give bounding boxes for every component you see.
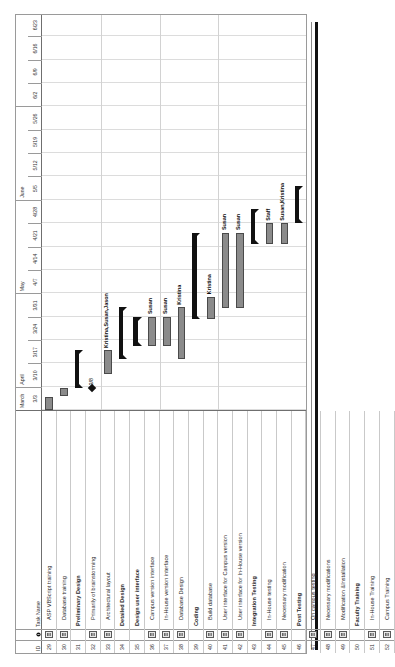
table-row[interactable]: 48Necessary modifications	[321, 411, 336, 653]
timescale-week-tick: 6/16	[28, 36, 42, 59]
table-row[interactable]: 40Build database	[204, 411, 219, 653]
note-icon[interactable]	[57, 629, 71, 640]
gantt-summary-bar[interactable]	[133, 316, 137, 345]
timescale-week-tick: 6/9	[28, 59, 42, 82]
note-icon[interactable]	[306, 629, 320, 640]
timescale-months: MarchAprilMayJune	[16, 15, 28, 410]
gantt-bar-row	[42, 15, 57, 410]
gantt-plot-area[interactable]: 3/8Kristina,Susan,JasonSusanSusanKristin…	[42, 15, 306, 410]
row-id: 50	[350, 640, 364, 653]
note-icon[interactable]	[380, 629, 394, 640]
table-row[interactable]: 42User interface for In-House version	[233, 411, 248, 653]
gantt-bar[interactable]	[266, 223, 274, 244]
no-icon	[130, 629, 144, 640]
table-row[interactable]: 34Detailed Design	[115, 411, 130, 653]
row-id: 42	[233, 640, 247, 653]
gantt-bar-row: Susan	[218, 15, 233, 410]
gantt-bar-row	[130, 15, 145, 410]
timescale-month: March	[16, 386, 28, 409]
timescale-week-tick: 5/12	[28, 153, 42, 176]
table-row[interactable]: 33Architectural layout	[101, 411, 116, 653]
gantt-bar-row: Kristina	[174, 15, 189, 410]
table-row[interactable]: 39Coding	[189, 411, 204, 653]
gantt-bar[interactable]	[104, 350, 112, 373]
table-row[interactable]: 38Database Design	[174, 411, 189, 653]
note-icon[interactable]	[218, 629, 232, 640]
no-icon	[115, 629, 129, 640]
table-row[interactable]: 41User interface for Campus version	[218, 411, 233, 653]
gantt-summary-bar[interactable]	[192, 232, 196, 318]
table-row[interactable]: 36Campus version interface	[145, 411, 160, 653]
task-name-cell: Coding	[189, 411, 203, 629]
table-row[interactable]: 37In-House version interface	[160, 411, 175, 653]
gantt-summary-bar[interactable]	[75, 350, 79, 387]
gantt-bar[interactable]	[222, 232, 230, 308]
column-header-task-name[interactable]: Task Name	[16, 410, 42, 629]
table-row[interactable]: 30Database training	[57, 411, 72, 653]
timescale-header: MarchAprilMayJune 3/33/103/173/243/314/7…	[16, 15, 42, 410]
gantt-bar-row: Staff	[263, 15, 278, 410]
task-name-cell: Post Testing	[292, 411, 306, 629]
table-row[interactable]: 31Preliminary Design	[71, 411, 86, 653]
gantt-bar-label: Staff	[265, 208, 271, 220]
gantt-bar-row	[248, 15, 263, 410]
table-row[interactable]: 45Necessary modification	[277, 411, 292, 653]
table-row[interactable]: 29ASP VBScript training	[42, 411, 57, 653]
table-row[interactable]: 52Campus Training	[380, 411, 395, 653]
row-id: 48	[321, 640, 335, 653]
note-icon[interactable]	[204, 629, 218, 640]
gantt-bar[interactable]	[178, 307, 186, 358]
note-icon[interactable]	[277, 629, 291, 640]
gantt-bar[interactable]	[45, 397, 53, 410]
timescale-week-tick: 6/23	[28, 15, 42, 36]
note-icon[interactable]	[86, 629, 100, 640]
note-icon[interactable]	[174, 629, 188, 640]
table-row[interactable]: 43Integration Testing	[248, 411, 263, 653]
table-row[interactable]: 51In-House Training	[365, 411, 380, 653]
task-name-cell: In-House version interface	[160, 411, 174, 629]
gantt-bar-label: 3/8	[88, 378, 94, 385]
gantt-bar[interactable]	[281, 223, 289, 244]
gantt-bar[interactable]	[148, 316, 156, 345]
table-row[interactable]: 46Post Testing	[292, 411, 307, 653]
table-row[interactable]: 49Modification &Installation	[336, 411, 351, 653]
gantt-summary-bar[interactable]	[251, 209, 255, 244]
table-row[interactable]: 32Primarily of brainstorming	[86, 411, 101, 653]
no-icon	[248, 629, 262, 640]
note-icon[interactable]	[101, 629, 115, 640]
task-name-cell: Modification &Installation	[336, 411, 350, 629]
table-row[interactable]: 47On campus testing	[306, 411, 321, 653]
note-icon[interactable]	[365, 629, 379, 640]
note-icon[interactable]	[145, 629, 159, 640]
gantt-bar-label: Susan	[235, 213, 241, 229]
task-name-cell: User interface for Campus version	[218, 411, 232, 629]
gantt-bar-label: Susan,Kristina	[279, 182, 285, 220]
row-id: 32	[86, 640, 100, 653]
gantt-bar-row	[292, 15, 306, 410]
table-row[interactable]: 35Design user interface	[130, 411, 145, 653]
gantt-bar[interactable]	[207, 296, 215, 318]
task-name-cell: ASP VBScript training	[42, 411, 56, 629]
timescale-week-tick: 4/21	[28, 223, 42, 246]
gantt-summary-bar[interactable]	[119, 307, 123, 358]
note-icon[interactable]	[262, 629, 276, 640]
column-header-id[interactable]: ID	[16, 640, 42, 653]
gantt-summary-bar[interactable]	[295, 185, 299, 222]
no-icon	[350, 629, 364, 640]
gantt-bar-row: Kristina	[204, 15, 219, 410]
note-icon[interactable]	[160, 629, 174, 640]
note-icon[interactable]	[336, 629, 350, 640]
gantt-bar[interactable]	[60, 387, 68, 395]
table-row[interactable]: 44In-House testing	[262, 411, 277, 653]
gantt-bar[interactable]	[236, 232, 244, 308]
gantt-bar-row: Kristina,Susan,Jason	[101, 15, 116, 410]
no-icon	[189, 629, 203, 640]
row-id: 34	[115, 640, 129, 653]
note-icon[interactable]	[233, 629, 247, 640]
gantt-bar[interactable]	[163, 316, 171, 345]
task-name-cell: Database Design	[174, 411, 188, 629]
note-icon[interactable]	[321, 629, 335, 640]
table-row[interactable]: 50Faculty Training	[350, 411, 365, 653]
note-icon[interactable]	[42, 629, 56, 640]
